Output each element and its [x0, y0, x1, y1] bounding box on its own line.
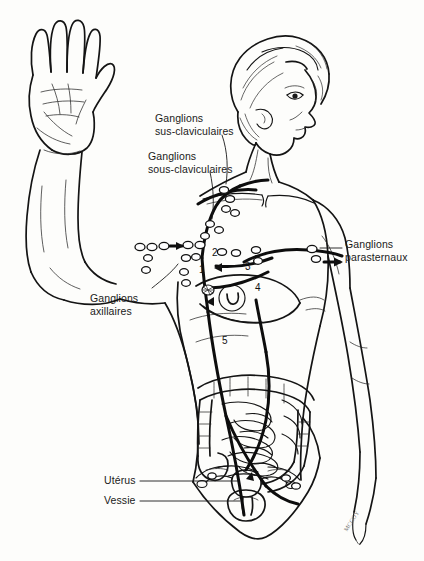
label-supraclavicular-line2: sus-claviculaires	[155, 125, 234, 138]
marker-5: 5	[222, 336, 228, 346]
label-axillary-line2: axillaires	[90, 305, 138, 318]
anatomical-figure: .ln { fill:none; stroke:#141414; stroke-…	[0, 0, 424, 561]
marker-2: 2	[212, 248, 218, 258]
label-axillary-line1: Ganglions	[90, 292, 138, 305]
illustration-canvas: .ln { fill:none; stroke:#141414; stroke-…	[0, 0, 424, 561]
label-infraclavicular-line1: Ganglions	[148, 150, 233, 163]
label-supraclavicular-line1: Ganglions	[155, 112, 234, 125]
label-parasternal-line1: Ganglions	[345, 238, 408, 251]
deep-axillary-node	[202, 285, 214, 295]
label-parasternal: Ganglions parasternaux	[345, 238, 408, 264]
label-infraclavicular: Ganglions sous-claviculaires	[148, 150, 233, 176]
label-axillary: Ganglions axillaires	[90, 292, 138, 318]
label-supraclavicular: Ganglions sus-claviculaires	[155, 112, 234, 138]
marker-1: 1	[199, 265, 205, 275]
label-parasternal-line2: parasternaux	[345, 251, 408, 264]
label-infraclavicular-line2: sous-claviculaires	[148, 163, 233, 176]
marker-3: 3	[245, 262, 251, 272]
label-bladder: Vessie	[104, 494, 136, 507]
label-uterus: Utérus	[104, 474, 136, 487]
marker-4: 4	[255, 283, 261, 293]
